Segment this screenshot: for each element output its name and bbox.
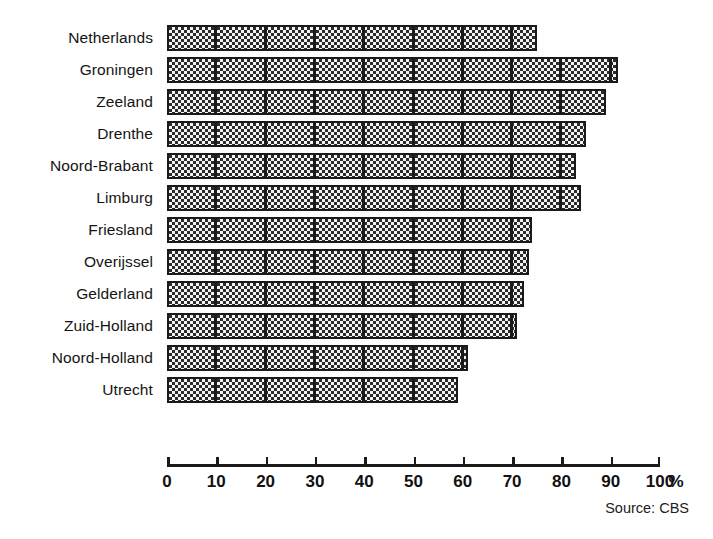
x-axis-tick-label: 80 bbox=[552, 472, 571, 492]
x-axis-tick bbox=[658, 457, 661, 466]
x-axis bbox=[167, 464, 660, 467]
bar-track bbox=[167, 217, 660, 243]
bar-track bbox=[167, 57, 660, 83]
bar bbox=[167, 153, 576, 179]
bar-segment-dividers bbox=[169, 59, 618, 81]
bar bbox=[167, 249, 529, 275]
bar-category-label: Netherlands bbox=[0, 25, 153, 51]
bar-category-label: Drenthe bbox=[0, 121, 153, 147]
chart-row: Noord-Brabant bbox=[0, 153, 713, 185]
bar-category-label: Gelderland bbox=[0, 281, 153, 307]
bar-segment-dividers bbox=[169, 123, 586, 145]
bar-category-label: Overijssel bbox=[0, 249, 153, 275]
bar-category-label: Noord-Holland bbox=[0, 345, 153, 371]
bar-segment-dividers bbox=[169, 251, 529, 273]
bar-segment-dividers bbox=[169, 379, 458, 401]
bar bbox=[167, 121, 586, 147]
x-axis-tick bbox=[216, 457, 219, 466]
bar-segment-dividers bbox=[169, 27, 537, 49]
bar bbox=[167, 185, 581, 211]
chart-row: Limburg bbox=[0, 185, 713, 217]
bar bbox=[167, 89, 606, 115]
bar-track bbox=[167, 313, 660, 339]
bar-track bbox=[167, 249, 660, 275]
x-axis-tick-label: 50 bbox=[404, 472, 423, 492]
bar-category-label: Groningen bbox=[0, 57, 153, 83]
bar-category-label: Noord-Brabant bbox=[0, 153, 153, 179]
chart-row: Utrecht bbox=[0, 377, 713, 409]
bar-chart-figure: NetherlandsGroningenZeelandDrentheNoord-… bbox=[0, 0, 713, 539]
x-axis-tick bbox=[561, 457, 564, 466]
x-axis-tick-label: 0 bbox=[162, 472, 171, 492]
chart-row: Overijssel bbox=[0, 249, 713, 281]
x-axis-tick-label: 20 bbox=[256, 472, 275, 492]
bar-segment-dividers bbox=[169, 155, 576, 177]
x-axis-tick-label: 60 bbox=[453, 472, 472, 492]
bar-category-label: Zeeland bbox=[0, 89, 153, 115]
bar-segment-dividers bbox=[169, 347, 468, 369]
x-axis-tick bbox=[315, 457, 318, 466]
x-axis-tick-label: 40 bbox=[355, 472, 374, 492]
x-axis-tick-label: 10 bbox=[207, 472, 226, 492]
chart-row: Netherlands bbox=[0, 25, 713, 57]
source-note: Source: CBS bbox=[605, 500, 689, 516]
x-axis-tick bbox=[167, 457, 170, 466]
chart-row: Friesland bbox=[0, 217, 713, 249]
bar-category-label: Zuid-Holland bbox=[0, 313, 153, 339]
chart-row: Groningen bbox=[0, 57, 713, 89]
bar-segment-dividers bbox=[169, 187, 581, 209]
bar-category-label: Utrecht bbox=[0, 377, 153, 403]
x-axis-unit-label: % bbox=[668, 472, 683, 492]
bar-track bbox=[167, 377, 660, 403]
chart-row: Drenthe bbox=[0, 121, 713, 153]
x-axis-tick bbox=[266, 457, 269, 466]
x-axis-tick bbox=[463, 457, 466, 466]
bar-segment-dividers bbox=[169, 219, 532, 241]
x-axis-tick bbox=[512, 457, 515, 466]
chart-row: Noord-Holland bbox=[0, 345, 713, 377]
bar-track bbox=[167, 153, 660, 179]
chart-row: Gelderland bbox=[0, 281, 713, 313]
bar-segment-dividers bbox=[169, 315, 517, 337]
bar bbox=[167, 57, 618, 83]
bar-track bbox=[167, 121, 660, 147]
bar bbox=[167, 345, 468, 371]
bar-track bbox=[167, 89, 660, 115]
bar-segment-dividers bbox=[169, 283, 524, 305]
bar bbox=[167, 313, 517, 339]
bar-track bbox=[167, 25, 660, 51]
bar-segment-dividers bbox=[169, 91, 606, 113]
bar-track bbox=[167, 185, 660, 211]
chart-rows: NetherlandsGroningenZeelandDrentheNoord-… bbox=[0, 25, 713, 409]
bar bbox=[167, 25, 537, 51]
x-axis-tick-label: 90 bbox=[601, 472, 620, 492]
x-axis-tick-label: 30 bbox=[305, 472, 324, 492]
x-axis-tick-label: 70 bbox=[503, 472, 522, 492]
x-axis-tick bbox=[364, 457, 367, 466]
bar bbox=[167, 377, 458, 403]
bar-track bbox=[167, 281, 660, 307]
chart-row: Zeeland bbox=[0, 89, 713, 121]
x-axis-tick bbox=[611, 457, 614, 466]
bar-track bbox=[167, 345, 660, 371]
bar bbox=[167, 217, 532, 243]
bar bbox=[167, 281, 524, 307]
bar-category-label: Limburg bbox=[0, 185, 153, 211]
x-axis-tick bbox=[414, 457, 417, 466]
bar-category-label: Friesland bbox=[0, 217, 153, 243]
chart-row: Zuid-Holland bbox=[0, 313, 713, 345]
